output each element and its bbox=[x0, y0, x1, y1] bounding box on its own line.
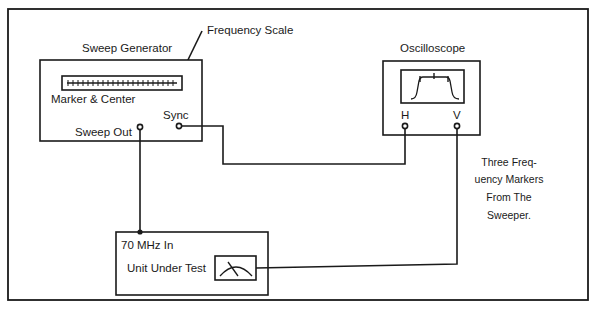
note-line-2: uency Markers bbox=[475, 173, 544, 185]
unit-under-test-title: Unit Under Test bbox=[127, 262, 207, 274]
v-terminal bbox=[454, 123, 459, 128]
note-line-1: Three Freq- bbox=[481, 156, 537, 168]
wire-sync-to-h bbox=[182, 126, 405, 164]
oscilloscope-title: Oscilloscope bbox=[400, 42, 465, 54]
note-line-3: From The bbox=[486, 191, 531, 203]
h-input-label: H bbox=[401, 109, 409, 121]
input-70mhz-label: 70 MHz In bbox=[121, 239, 173, 251]
meter-box bbox=[215, 256, 256, 280]
sweep-out-terminal bbox=[137, 124, 142, 129]
marker-note: Three Freq- uency Markers From The Sweep… bbox=[475, 156, 544, 221]
unit-under-test: 70 MHz In Unit Under Test bbox=[116, 229, 268, 295]
sweep-generator: Sweep Generator Frequency Scale Marker &… bbox=[40, 24, 293, 141]
test-setup-diagram: Sweep Generator Frequency Scale Marker &… bbox=[0, 0, 598, 314]
oscilloscope: Oscilloscope H V bbox=[383, 42, 480, 135]
frequency-scale-label: Frequency Scale bbox=[207, 24, 293, 36]
sync-terminal bbox=[176, 123, 181, 128]
marker-center-label: Marker & Center bbox=[51, 93, 136, 105]
sweep-generator-title: Sweep Generator bbox=[82, 42, 172, 54]
v-input-label: V bbox=[453, 109, 461, 121]
sweep-out-label: Sweep Out bbox=[75, 126, 133, 138]
sync-label: Sync bbox=[163, 109, 189, 121]
wire-meter-to-v bbox=[256, 129, 457, 268]
h-terminal bbox=[402, 123, 407, 128]
note-line-4: Sweeper. bbox=[487, 209, 531, 221]
